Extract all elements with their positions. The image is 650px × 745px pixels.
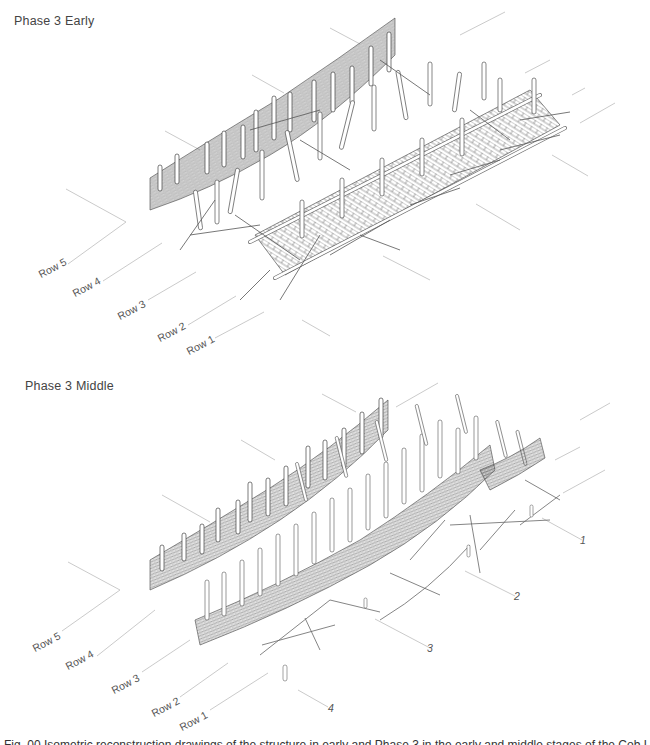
- drawing-phase3-middle: [62, 383, 610, 710]
- callout-2: 2: [514, 590, 520, 602]
- callout-3: 3: [427, 642, 433, 654]
- figure-caption-partial: Fig. 00 Isometric reconstruction drawing…: [4, 738, 650, 745]
- callout-1: 1: [580, 534, 586, 546]
- drawing-phase3-early: [66, 12, 615, 338]
- callout-4: 4: [328, 702, 334, 714]
